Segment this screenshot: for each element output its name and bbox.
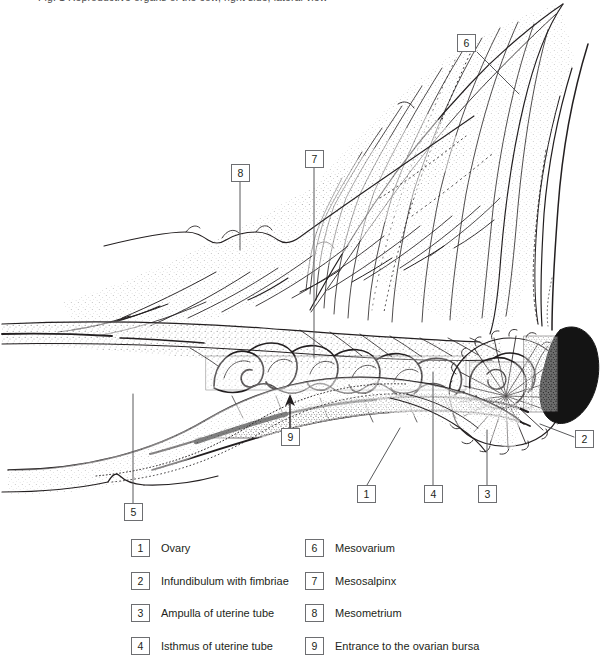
legend-label: Isthmus of uterine tube [161, 640, 273, 652]
legend-number: 7 [305, 572, 324, 590]
callout-5: 5 [124, 503, 143, 521]
legend-number: 3 [131, 604, 150, 622]
callout-6: 6 [457, 34, 476, 52]
legend-number: 6 [305, 539, 324, 557]
legend-item: 6 Mesovarium [305, 536, 479, 560]
callout-8: 8 [231, 164, 250, 182]
legend-item: 4 Isthmus of uterine tube [131, 634, 289, 658]
legend-number: 8 [305, 604, 324, 622]
isthmus-and-bursa [0, 372, 540, 502]
callout-1: 1 [357, 485, 376, 503]
callout-4: 4 [424, 485, 443, 503]
figure-legend: 1 Ovary 2 Infundibulum with fimbriae 3 A… [0, 530, 606, 647]
callout-2: 2 [575, 430, 594, 448]
anatomical-illustration: Lateral view of bovine ovary, uterine tu… [0, 0, 606, 530]
legend-item: 9 Entrance to the ovarian bursa [305, 634, 479, 658]
callout-9: 9 [281, 428, 300, 446]
legend-number: 4 [131, 637, 150, 655]
legend-label: Ampulla of uterine tube [161, 607, 274, 619]
legend-number: 2 [131, 572, 150, 590]
legend-label: Mesovarium [335, 542, 395, 554]
callout-7: 7 [305, 150, 324, 168]
legend-item: 3 Ampulla of uterine tube [131, 601, 289, 625]
legend-column-right: 6 Mesovarium 7 Mesosalpinx 8 Mesometrium… [305, 536, 479, 659]
legend-label: Mesosalpinx [335, 575, 396, 587]
legend-label: Ovary [161, 542, 190, 554]
ovary-structure [524, 327, 599, 424]
legend-item: 8 Mesometrium [305, 601, 479, 625]
legend-label: Infundibulum with fimbriae [161, 575, 289, 587]
callout-3: 3 [478, 485, 497, 503]
legend-item: 1 Ovary [131, 536, 289, 560]
legend-label: Entrance to the ovarian bursa [335, 640, 479, 652]
legend-item: 2 Infundibulum with fimbriae [131, 569, 289, 593]
legend-number: 1 [131, 539, 150, 557]
legend-label: Mesometrium [335, 607, 402, 619]
legend-item: 7 Mesosalpinx [305, 569, 479, 593]
legend-column-left: 1 Ovary 2 Infundibulum with fimbriae 3 A… [131, 536, 289, 659]
legend-number: 9 [305, 637, 324, 655]
